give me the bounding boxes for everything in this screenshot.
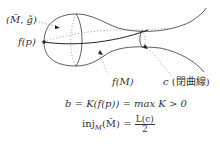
image-fm-label: f(M) [112, 77, 134, 87]
curve-name: c [163, 76, 169, 87]
fraction-denominator: 2 [135, 125, 155, 134]
equation-injectivity-radius: injM(M̃) = L(c) 2 [82, 115, 155, 134]
manifold-diagram: (M̃, g̃) f(p) f(M) c (閉曲線) b = K(f(p)) =… [0, 0, 220, 149]
curve-note: (閉曲線) [172, 76, 210, 87]
equation-curvature-text: b = K(f(p)) = max K > 0 [65, 98, 187, 109]
fraction: L(c) 2 [135, 115, 155, 134]
inj-subscript: M [95, 124, 102, 132]
inj-argument: (M̃) = [102, 118, 132, 129]
equation-curvature: b = K(f(p)) = max K > 0 [65, 99, 187, 109]
manifold-label: (M̃, g̃) [6, 15, 37, 25]
inj-symbol: inj [82, 118, 95, 129]
point-fp-label: f(p) [18, 37, 36, 47]
curve-c-label: c (閉曲線) [163, 77, 210, 87]
